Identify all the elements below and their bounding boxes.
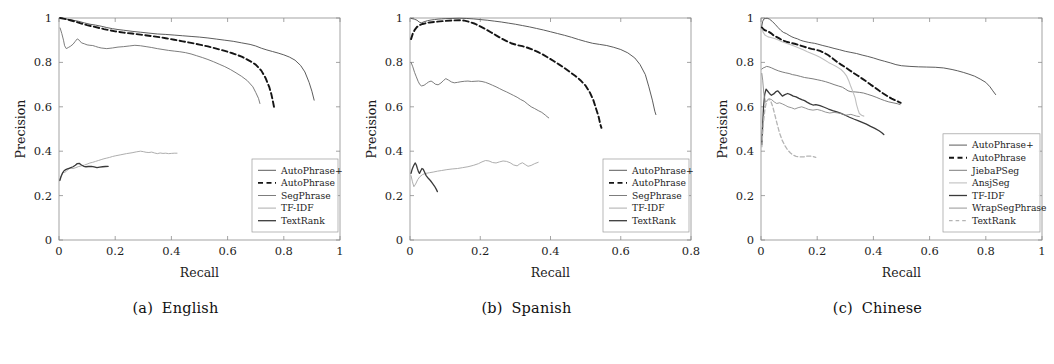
x-tick-label: 0.8 [275,244,293,258]
x-tick-label: 0.6 [612,244,630,258]
x-axis-title: Recall [531,265,570,280]
curve-tf-idf [411,161,538,187]
x-tick-label: 0 [757,244,764,258]
y-axis-title: Precision [715,100,730,159]
curve-jiebapseg [762,66,900,104]
legend-label: AutoPhrase [280,177,335,188]
curve-wrapsegphrase [762,74,860,117]
y-tick-label: 0.4 [385,144,403,158]
x-tick-label: 1 [336,244,343,258]
precision-recall-figure: 00.20.40.60.8100.20.40.60.81RecallPrecis… [0,0,1054,364]
legend: AutoPhrase+AutoPhraseSegPhraseTF-IDFText… [252,159,343,232]
legend-label: SegPhrase [632,190,682,201]
curve-segphrase [411,62,549,118]
x-tick-label: 0.4 [864,244,882,258]
y-axis-title: Precision [364,100,379,159]
legend-label: AutoPhrase+ [280,165,343,176]
legend-label: TF-IDF [281,202,314,213]
legend-label: AutoPhrase [631,177,686,188]
legend-label: TF-IDF [972,190,1005,201]
legend-label: SegPhrase [281,190,331,201]
x-tick-label: 0 [55,244,62,258]
x-tick-label: 0.4 [162,244,180,258]
legend-label: TextRank [972,215,1016,226]
x-tick-label: 0.2 [106,244,124,258]
curve-autophrase- [60,18,314,100]
curve-autophrase [762,27,901,102]
curve-tf-idf [60,151,177,179]
x-tick-label: 0.2 [808,244,826,258]
x-tick-label: 1 [1038,244,1045,258]
legend-label: WrapSegPhrase [972,202,1047,213]
legend: AutoPhrase+AutoPhraseJiebaPSegAnsjSegTF-… [943,134,1047,232]
x-axis-title: Recall [882,265,921,280]
caption-tag-a: (a) [132,300,153,316]
legend-label: AnsjSeg [971,177,1010,188]
y-tick-label: 0.8 [385,55,403,69]
curve-segphrase [60,28,260,103]
x-tick-label: 0.6 [920,244,938,258]
y-tick-label: 1 [747,11,754,25]
y-tick-label: 0 [45,233,52,247]
y-tick-label: 1 [45,11,52,25]
y-tick-label: 0.4 [736,144,754,158]
x-tick-label: 0 [406,244,413,258]
curve-autophrase- [411,18,656,114]
legend: AutoPhrase+AutoPhraseSegPhraseTF-IDFText… [603,159,694,232]
caption-spanish: (b) Spanish [351,300,702,316]
y-tick-label: 0.2 [736,189,754,203]
y-tick-label: 0.6 [736,100,754,114]
legend-label: TextRank [632,215,676,226]
y-tick-label: 0.2 [34,189,52,203]
caption-english: (a) English [0,300,351,316]
legend-label: AutoPhrase [971,152,1026,163]
legend-label: TextRank [281,215,325,226]
curve-textrank [762,99,816,157]
panel-english: 00.20.40.60.8100.20.40.60.81RecallPrecis… [0,0,351,364]
y-tick-label: 0.4 [34,144,52,158]
curve-autophrase- [762,18,996,94]
chart-english: 00.20.40.60.8100.20.40.60.81RecallPrecis… [0,0,351,300]
y-tick-label: 1 [396,11,403,25]
caption-text-c: Chinese [862,300,922,316]
legend-label: AutoPhrase+ [971,139,1034,150]
x-tick-label: 0.4 [541,244,559,258]
legend-label: AutoPhrase+ [631,165,694,176]
caption-tag-c: (c) [833,300,853,316]
panel-spanish: 00.20.40.60.800.20.40.60.81RecallPrecisi… [351,0,702,364]
curve-textrank [60,163,108,180]
x-tick-label: 0.8 [682,244,700,258]
legend-label: TF-IDF [632,202,665,213]
x-tick-label: 0.6 [218,244,236,258]
y-tick-label: 0 [747,233,754,247]
x-tick-label: 0.2 [471,244,489,258]
y-tick-label: 0 [396,233,403,247]
panel-chinese: 00.20.40.60.8100.20.40.60.81RecallPrecis… [702,0,1053,364]
caption-chinese: (c) Chinese [702,300,1053,316]
y-tick-label: 0.6 [385,100,403,114]
caption-text-b: Spanish [511,300,571,316]
curve-autophrase [60,18,274,107]
curve-textrank [411,163,437,192]
caption-tag-b: (b) [481,300,502,316]
y-tick-label: 0.2 [385,189,403,203]
legend-label: JiebaPSeg [971,165,1019,176]
y-tick-label: 0.8 [34,55,52,69]
x-tick-label: 0.8 [977,244,995,258]
chart-chinese: 00.20.40.60.8100.20.40.60.81RecallPrecis… [702,0,1054,300]
x-axis-title: Recall [180,265,219,280]
y-tick-label: 0.8 [736,55,754,69]
y-tick-label: 0.6 [34,100,52,114]
chart-spanish: 00.20.40.60.800.20.40.60.81RecallPrecisi… [351,0,702,300]
caption-text-a: English [162,300,219,316]
y-axis-title: Precision [13,100,28,159]
curve-autophrase [411,20,601,128]
